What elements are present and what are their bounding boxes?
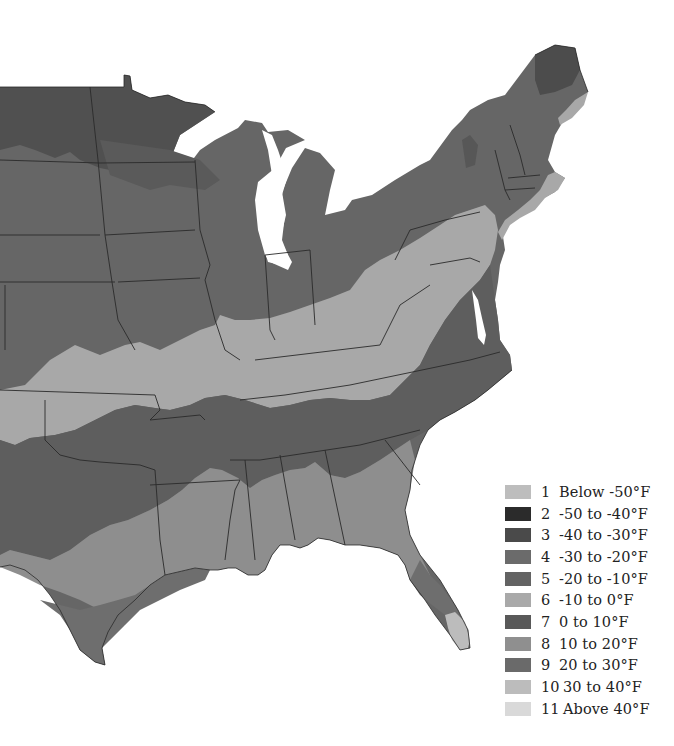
legend-swatch [505,507,531,521]
legend-zone-number: 3 [541,527,559,543]
legend-swatch [505,658,531,672]
legend-zone-range: Above 40°F [563,701,650,717]
legend-zone-number: 9 [541,657,559,673]
legend-swatch [505,702,531,716]
legend-item-zone-4: 4 -30 to -20°F [505,546,670,568]
legend-zone-number: 6 [541,592,559,608]
legend-zone-number: 8 [541,636,559,652]
legend-zone-range: 0 to 10°F [559,614,629,630]
legend-zone-number: 1 [541,484,559,500]
legend-zone-range: -20 to -10°F [559,571,648,587]
legend-zone-range: Below -50°F [559,484,650,500]
legend-zone-number: 11 [541,701,563,717]
legend-item-zone-7: 7 0 to 10°F [505,611,670,633]
legend-zone-number: 10 [541,679,563,695]
legend-swatch [505,680,531,694]
legend-swatch [505,528,531,542]
legend-item-zone-8: 8 10 to 20°F [505,633,670,655]
legend-item-zone-5: 5 -20 to -10°F [505,568,670,590]
legend-item-zone-1: 1 Below -50°F [505,481,670,503]
legend-item-zone-11: 11 Above 40°F [505,698,670,720]
legend-zone-range: 30 to 40°F [563,679,642,695]
legend-swatch [505,615,531,629]
legend-zone-range: -10 to 0°F [559,592,634,608]
legend-zone-number: 2 [541,506,559,522]
legend-item-zone-10: 10 30 to 40°F [505,676,670,698]
legend-zone-number: 5 [541,571,559,587]
legend-swatch [505,593,531,607]
legend-item-zone-6: 6 -10 to 0°F [505,589,670,611]
legend-zone-range: -30 to -20°F [559,549,648,565]
legend-zone-range: -40 to -30°F [559,527,648,543]
legend-item-zone-2: 2 -50 to -40°F [505,503,670,525]
legend-zone-range: 20 to 30°F [559,657,638,673]
legend-zone-number: 4 [541,549,559,565]
legend-swatch [505,550,531,564]
legend-zone-range: 10 to 20°F [559,636,638,652]
legend-item-zone-9: 9 20 to 30°F [505,655,670,677]
legend-zone-range: -50 to -40°F [559,506,648,522]
legend-swatch [505,572,531,586]
map-legend: 1 Below -50°F 2 -50 to -40°F 3 -40 to -3… [505,481,670,720]
legend-swatch [505,637,531,651]
legend-swatch [505,485,531,499]
legend-zone-number: 7 [541,614,559,630]
legend-item-zone-3: 3 -40 to -30°F [505,524,670,546]
